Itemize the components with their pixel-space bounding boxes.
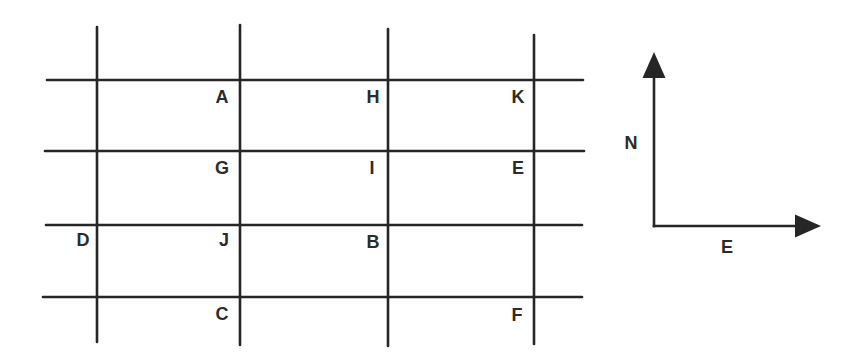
point-label-c: C	[216, 305, 229, 323]
point-label-j: J	[219, 231, 229, 249]
point-label-f: F	[512, 306, 523, 324]
horizontal-grid-lines	[43, 80, 584, 297]
street-grid	[0, 0, 855, 356]
compass-east-label: E	[721, 238, 733, 256]
point-label-i: I	[369, 159, 374, 177]
compass-north-label: N	[625, 134, 638, 152]
point-label-e: E	[512, 159, 524, 177]
point-label-d: D	[77, 231, 90, 249]
grid-diagram: A H K G I E D J B C F N E	[0, 0, 855, 356]
point-label-b: B	[367, 233, 380, 251]
point-label-k: K	[512, 88, 525, 106]
point-label-g: G	[215, 159, 229, 177]
east-arrow-icon	[795, 215, 821, 238]
point-label-a: A	[216, 88, 229, 106]
point-label-h: H	[367, 88, 380, 106]
compass	[643, 52, 822, 238]
north-arrow-icon	[643, 52, 666, 78]
